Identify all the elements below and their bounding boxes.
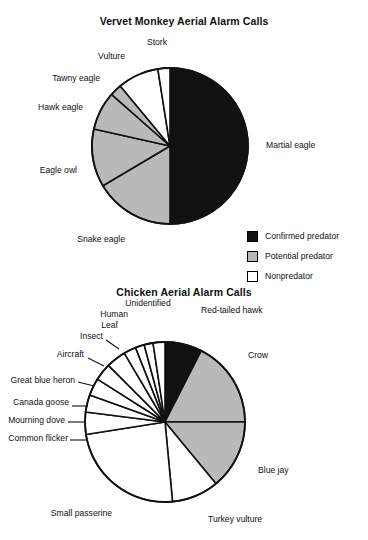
legend-label-potential-predator: Potential predator — [265, 251, 333, 261]
pie-label-unidentified: Unidentified — [105, 299, 191, 309]
pie-label-eagle-owl: Eagle owl — [0, 166, 77, 176]
leader-aircraft — [88, 358, 104, 366]
chart-legend: Confirmed predator Potential predator No… — [247, 228, 339, 288]
vervet-monkey-chart-panel: Vervet Monkey Aerial Alarm Calls Martial… — [0, 0, 368, 282]
pie-label-human: Human — [0, 310, 128, 320]
legend-swatch-potential-predator — [247, 251, 258, 262]
leader-insect — [106, 340, 119, 349]
pie-label-snake-eagle: Snake eagle — [0, 235, 125, 245]
pie-label-tawny-eagle: Tawny eagle — [0, 74, 100, 84]
pie-label-small-passerine: Small passerine — [0, 509, 112, 519]
pie-label-common-flicker: Common flicker — [0, 434, 68, 444]
chicken-chart-panel: Chicken Aerial Alarm Calls Red-tailed ha… — [0, 282, 368, 540]
pie-label-martial-eagle: Martial eagle — [266, 141, 315, 151]
legend-swatch-confirmed-predator — [247, 231, 258, 242]
pie-label-hawk-eagle: Hawk eagle — [0, 103, 83, 113]
pie-label-vulture: Vulture — [0, 52, 125, 62]
pie-label-stork: Stork — [124, 38, 190, 48]
pie-label-mourning-dove: Mourning dove — [0, 416, 65, 426]
pie-label-leaf: Leaf — [0, 321, 118, 331]
legend-item-potential-predator: Potential predator — [247, 248, 339, 264]
pie-label-canada-goose: Canada goose — [0, 398, 69, 408]
pie-label-blue-jay: Blue jay — [258, 466, 289, 476]
pie-label-turkey-vulture: Turkey vulture — [208, 515, 262, 525]
vervet-pie-slice-martial-eagle — [170, 68, 248, 224]
pie-label-aircraft: Aircraft — [0, 350, 84, 360]
pie-label-crow: Crow — [248, 351, 268, 361]
legend-label-confirmed-predator: Confirmed predator — [265, 231, 339, 241]
legend-item-confirmed-predator: Confirmed predator — [247, 228, 339, 244]
chicken-pie-slice-small-passerine — [86, 422, 173, 502]
legend-swatch-nonpredator — [247, 271, 258, 282]
legend-label-nonpredator: Nonpredator — [265, 271, 313, 281]
leader-great-blue-heron — [78, 382, 94, 386]
pie-label-red-tailed-hawk: Red-tailed hawk — [201, 306, 263, 316]
pie-label-insect: Insect — [0, 332, 103, 342]
pie-label-great-blue-heron: Great blue heron — [0, 376, 75, 386]
